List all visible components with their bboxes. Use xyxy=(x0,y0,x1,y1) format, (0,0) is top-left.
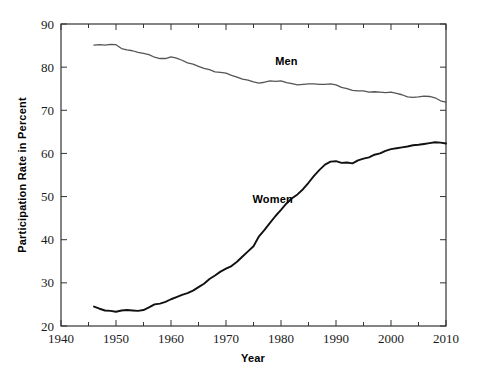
y-tick-label: 80 xyxy=(41,60,54,75)
x-tick-label: 1990 xyxy=(323,331,349,346)
x-axis-tick-labels: 19401950196019701980199020002010 xyxy=(48,331,459,346)
x-tick-label: 2000 xyxy=(378,331,404,346)
series-label-men: Men xyxy=(275,55,298,67)
x-tick-label: 2010 xyxy=(433,331,459,346)
y-tick-label: 30 xyxy=(41,275,54,290)
plot-background xyxy=(61,24,446,326)
x-tick-label: 1950 xyxy=(103,331,129,346)
y-tick-label: 20 xyxy=(41,319,54,334)
x-axis-title: Year xyxy=(241,352,266,364)
y-axis-title: Participation Rate in Percent xyxy=(16,97,28,253)
y-tick-label: 60 xyxy=(41,146,54,161)
x-tick-label: 1960 xyxy=(158,331,184,346)
chart-figure: 19401950196019701980199020002010 2030405… xyxy=(0,0,485,381)
y-tick-label: 40 xyxy=(41,232,54,247)
y-tick-label: 70 xyxy=(41,103,54,118)
y-axis-tick-labels: 2030405060708090 xyxy=(41,17,54,334)
x-tick-label: 1970 xyxy=(213,331,239,346)
x-tick-label: 1980 xyxy=(268,331,294,346)
series-label-women: Women xyxy=(252,193,293,205)
participation-rate-line-chart: 19401950196019701980199020002010 2030405… xyxy=(0,0,485,381)
y-tick-label: 90 xyxy=(41,17,54,32)
y-tick-label: 50 xyxy=(41,189,54,204)
